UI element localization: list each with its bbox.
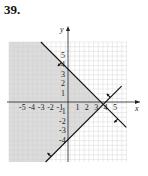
- coordinate-graph: x y -5-4-3-2-11234554321-1-2-3-4: [0, 0, 148, 176]
- y-tick-label: -1: [59, 107, 66, 116]
- y-tick-label: -2: [59, 117, 66, 126]
- x-axis-label: x: [134, 104, 139, 113]
- x-tick-label: -4: [28, 103, 35, 112]
- x-tick-label: -2: [47, 103, 54, 112]
- y-axis-label: y: [59, 25, 64, 34]
- y-axis-arrow-icon: [66, 26, 70, 31]
- y-tick-label: 5: [61, 51, 65, 60]
- y-tick-label: 3: [61, 70, 65, 79]
- x-tick-label: 5: [113, 103, 117, 112]
- y-tick-label: 1: [61, 89, 65, 98]
- y-tick-label: 2: [61, 79, 65, 88]
- x-tick-label: 1: [75, 103, 79, 112]
- x-tick-label: -5: [19, 103, 26, 112]
- x-tick-label: 2: [85, 103, 89, 112]
- y-tick-label: -3: [59, 126, 66, 135]
- x-tick-label: -3: [38, 103, 45, 112]
